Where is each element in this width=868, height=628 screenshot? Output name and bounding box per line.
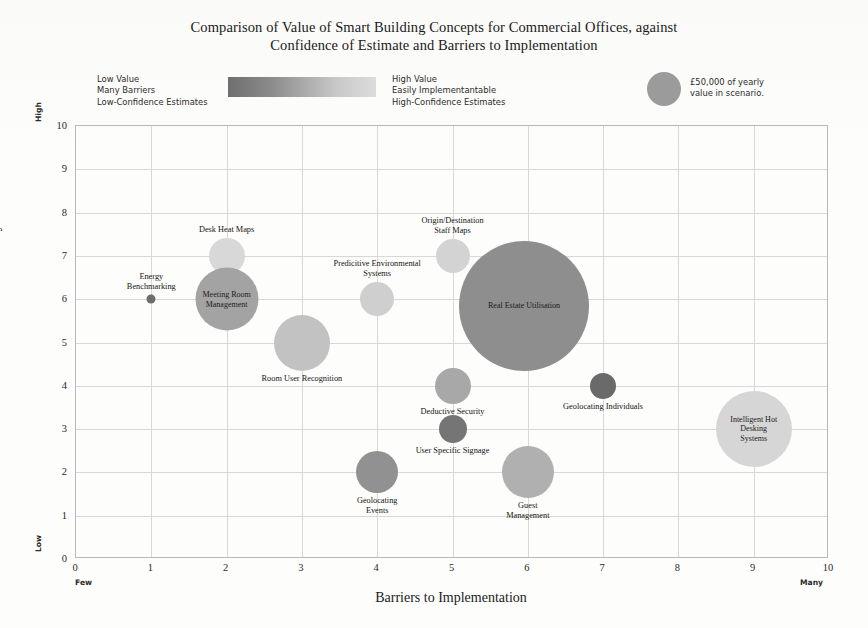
- legend-bubble-size-label: £50,000 of yearly value in scenario.: [690, 77, 764, 100]
- bubble-point[interactable]: Real Estate Utilisation: [459, 241, 589, 371]
- chart-title: Comparison of Value of Smart Building Co…: [0, 18, 868, 54]
- bubble-point[interactable]: Meeting Room Management: [195, 268, 258, 331]
- y-tick-label: 7: [62, 249, 67, 260]
- gridline-horizontal: [76, 213, 827, 214]
- gridline-horizontal: [76, 299, 827, 300]
- plot-area: Energy BenchmarkingDesk Heat MapsMeeting…: [75, 125, 828, 558]
- y-axis-title: Accuracy of Valuation: [0, 152, 3, 278]
- y-axis-low-label: Low: [34, 535, 43, 552]
- legend-high-end-label: High Value Easily Implementantable High-…: [392, 74, 505, 108]
- x-axis: Barriers to Implementation: [75, 558, 828, 598]
- y-axis: Accuracy of Valuation High Low 012345678…: [0, 0, 75, 628]
- bubble-point[interactable]: [147, 295, 156, 304]
- y-tick-label: 3: [62, 423, 67, 434]
- y-tick-label: 4: [62, 379, 67, 390]
- y-tick-label: 10: [57, 120, 68, 131]
- gridline-horizontal: [76, 343, 827, 344]
- gridline-horizontal: [76, 472, 827, 473]
- bubble-point[interactable]: [360, 282, 394, 316]
- gridline-vertical: [453, 126, 454, 557]
- legend-low-end-label: Low Value Many Barriers Low-Confidence E…: [97, 74, 208, 108]
- bubble-point[interactable]: [274, 315, 330, 371]
- chart-title-line-2: Confidence of Estimate and Barriers to I…: [0, 36, 868, 54]
- bubble-point[interactable]: [439, 415, 467, 443]
- bubble-label: Intelligent Hot Desking Systems: [716, 415, 792, 443]
- x-axis-low-label: Few: [75, 578, 92, 587]
- gridline-vertical: [603, 126, 604, 557]
- y-tick-label: 6: [62, 293, 67, 304]
- gridline-vertical: [678, 126, 679, 557]
- y-tick-label: 1: [62, 509, 67, 520]
- bubble-label: Real Estate Utilisation: [486, 301, 562, 310]
- y-tick-label: 2: [62, 466, 67, 477]
- gridline-vertical: [227, 126, 228, 557]
- bubble-point[interactable]: [435, 368, 471, 404]
- y-tick-label: 9: [62, 163, 67, 174]
- y-tick-label: 5: [62, 336, 67, 347]
- bubble-point[interactable]: [436, 239, 470, 273]
- bubble-chart: Comparison of Value of Smart Building Co…: [0, 0, 868, 628]
- bubble-point[interactable]: [502, 446, 554, 498]
- chart-title-line-1: Comparison of Value of Smart Building Co…: [0, 18, 868, 36]
- y-tick-label: 8: [62, 206, 67, 217]
- bubble-point[interactable]: Intelligent Hot Desking Systems: [716, 391, 792, 467]
- bubble-label: Meeting Room Management: [200, 290, 252, 309]
- legend-bubble-size-swatch: [647, 72, 681, 106]
- gridline-horizontal: [76, 169, 827, 170]
- bubble-point[interactable]: [590, 373, 616, 399]
- gridline-vertical: [151, 126, 152, 557]
- gridline-vertical: [754, 126, 755, 557]
- legend-color-gradient-bar: [228, 77, 376, 97]
- bubble-point[interactable]: [356, 451, 398, 493]
- y-axis-high-label: High: [34, 102, 43, 122]
- chart-legend: Low Value Many Barriers Low-Confidence E…: [0, 66, 868, 116]
- gridline-horizontal: [76, 516, 827, 517]
- x-axis-high-label: Many: [800, 578, 823, 587]
- x-axis-title: Barriers to Implementation: [375, 590, 527, 606]
